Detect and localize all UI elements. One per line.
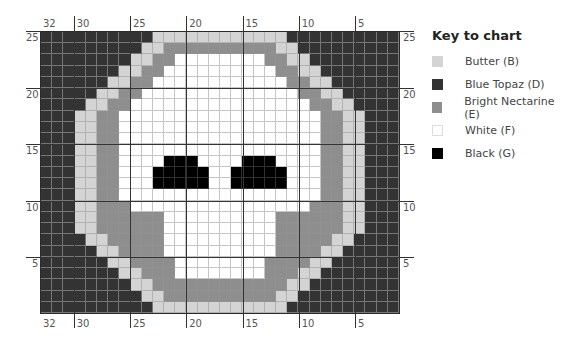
chart-cell: [242, 246, 253, 257]
chart-cell: [198, 156, 209, 167]
chart-cell: [321, 234, 332, 245]
column-label-top: 25: [133, 19, 146, 29]
chart-cell: [310, 302, 321, 313]
chart-cell: [142, 201, 153, 212]
chart-cell: [142, 189, 153, 200]
chart-cell: [332, 111, 343, 122]
chart-cell: [142, 268, 153, 279]
chart-cell: [97, 302, 108, 313]
chart-cell: [153, 88, 164, 99]
chart-cell: [142, 234, 153, 245]
chart-cell: [343, 88, 354, 99]
chart-cell: [365, 291, 376, 302]
chart-cell: [175, 99, 186, 110]
chart-cell: [41, 144, 52, 155]
chart-cell: [365, 257, 376, 268]
chart-cell: [365, 66, 376, 77]
chart-cell: [377, 99, 388, 110]
chart-cell: [186, 99, 197, 110]
chart-cell: [164, 201, 175, 212]
chart-cell: [175, 201, 186, 212]
chart-cell: [332, 77, 343, 88]
chart-cell: [86, 88, 97, 99]
chart-cell: [365, 189, 376, 200]
chart-cell: [321, 223, 332, 234]
chart-cell: [298, 111, 309, 122]
chart-cell: [119, 77, 130, 88]
chart-cell: [242, 167, 253, 178]
chart-cell: [108, 167, 119, 178]
chart-cell: [365, 201, 376, 212]
chart-cell: [332, 99, 343, 110]
chart-cell: [75, 302, 86, 313]
chart-cell: [209, 32, 220, 43]
chart-cell: [242, 54, 253, 65]
chart-cell: [343, 223, 354, 234]
chart-cell: [377, 122, 388, 133]
chart-cell: [220, 88, 231, 99]
chart-cell: [52, 54, 63, 65]
chart-cell: [220, 133, 231, 144]
chart-cell: [75, 77, 86, 88]
chart-cell: [388, 291, 399, 302]
chart-cell: [164, 302, 175, 313]
chart-cell: [298, 189, 309, 200]
chart-cell: [377, 88, 388, 99]
chart-cell: [119, 99, 130, 110]
chart-cell: [343, 54, 354, 65]
chart-cell: [365, 234, 376, 245]
chart-cell: [287, 122, 298, 133]
chart-cell: [388, 88, 399, 99]
chart-cell: [231, 257, 242, 268]
chart-cell: [332, 167, 343, 178]
chart-cell: [310, 178, 321, 189]
chart-cell: [254, 77, 265, 88]
chart-cell: [198, 133, 209, 144]
chart-cell: [365, 99, 376, 110]
chart-cell: [332, 122, 343, 133]
chart-cell: [276, 111, 287, 122]
chart-cell: [265, 156, 276, 167]
chart-cell: [343, 77, 354, 88]
chart-cell: [365, 54, 376, 65]
chart-cell: [41, 201, 52, 212]
chart-cell: [265, 291, 276, 302]
chart-cell: [343, 156, 354, 167]
chart-cell: [186, 246, 197, 257]
column-label-top: 5: [358, 19, 364, 29]
chart-cell: [198, 111, 209, 122]
chart-cell: [164, 54, 175, 65]
chart-cell: [153, 178, 164, 189]
chart-cell: [142, 246, 153, 257]
chart-cell: [209, 99, 220, 110]
chart-cell: [287, 234, 298, 245]
chart-cell: [119, 32, 130, 43]
chart-cell: [164, 189, 175, 200]
chart-cell: [388, 302, 399, 313]
chart-cell: [108, 257, 119, 268]
chart-cell: [119, 234, 130, 245]
chart-cell: [242, 133, 253, 144]
chart-cell: [153, 66, 164, 77]
chart-cell: [198, 189, 209, 200]
chart-cell: [242, 144, 253, 155]
chart-cell: [97, 122, 108, 133]
chart-cell: [86, 257, 97, 268]
chart-cell: [365, 43, 376, 54]
chart-cell: [86, 111, 97, 122]
chart-cell: [131, 32, 142, 43]
chart-cell: [298, 201, 309, 212]
chart-cell: [131, 189, 142, 200]
chart-cell: [343, 43, 354, 54]
chart-cell: [209, 189, 220, 200]
chart-cell: [97, 66, 108, 77]
chart-cell: [209, 279, 220, 290]
chart-cell: [242, 66, 253, 77]
column-label-bottom: 5: [358, 319, 364, 329]
chart-cell: [310, 156, 321, 167]
chart-cell: [276, 167, 287, 178]
chart-cell: [175, 302, 186, 313]
chart-cell: [198, 302, 209, 313]
chart-cell: [377, 302, 388, 313]
chart-cell: [276, 246, 287, 257]
